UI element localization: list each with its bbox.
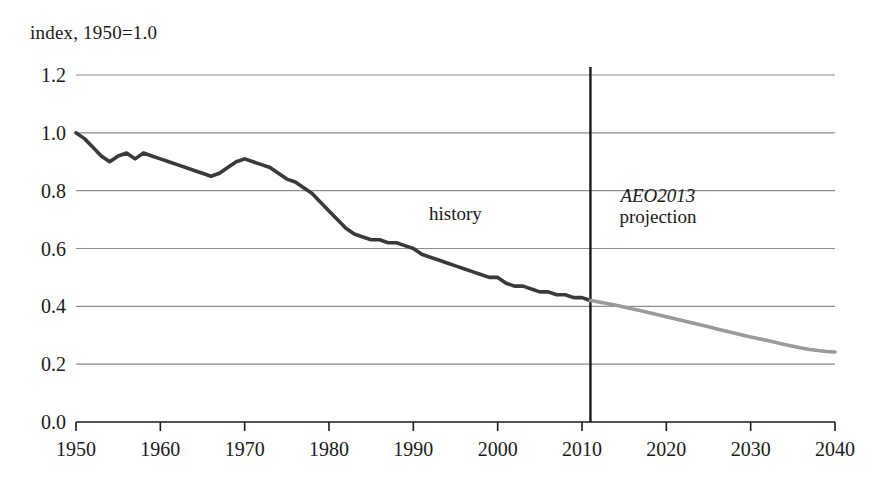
chart-plot-area [0,0,888,487]
annotation-history: history [429,203,482,225]
y-tick-label: 0.2 [8,354,66,374]
y-tick-label: 0.6 [8,239,66,259]
x-tick-label: 1960 [115,439,205,459]
x-tick-label: 1990 [368,439,458,459]
series-line-history [76,133,590,301]
x-tick-label: 1950 [31,439,121,459]
x-tick-label: 1970 [200,439,290,459]
chart-axis-title: index, 1950=1.0 [30,22,157,44]
annotation-projection: projection [619,206,696,228]
x-tick-label: 2020 [621,439,711,459]
x-tick-label: 1980 [284,439,374,459]
chart-figure: index, 1950=1.0 0.00.20.40.60.81.01.2 19… [0,0,888,487]
data-series-group [76,133,835,352]
x-tick-label: 2000 [453,439,543,459]
y-tick-label: 1.2 [8,65,66,85]
x-tick-label: 2030 [706,439,796,459]
x-tick-label: 2010 [537,439,627,459]
x-tick-label: 2040 [790,439,880,459]
gridlines-group [76,75,835,422]
series-line-aeo2013-projection [590,301,835,352]
y-tick-label: 0.8 [8,181,66,201]
x-tick-marks-group [76,422,835,431]
y-tick-label: 0.0 [8,412,66,432]
y-tick-label: 1.0 [8,123,66,143]
y-tick-label: 0.4 [8,296,66,316]
annotation-aeo2013: AEO2013 [620,185,695,207]
